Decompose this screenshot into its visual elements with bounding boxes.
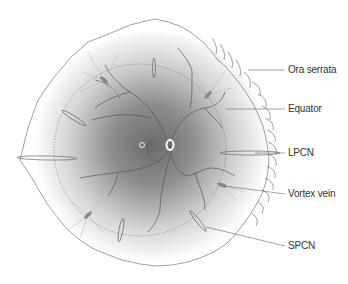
label-vortex-vein: Vortex vein <box>288 188 335 200</box>
label-lpcn: LPCN <box>288 147 314 159</box>
fundus-shading <box>32 32 268 268</box>
label-spcn: SPCN <box>288 240 315 252</box>
label-ora-serrata: Ora serrata <box>288 64 336 76</box>
label-equator: Equator <box>288 103 322 115</box>
